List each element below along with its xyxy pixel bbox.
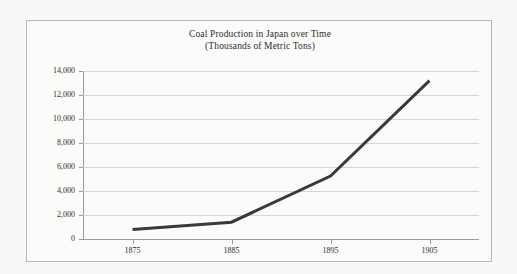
y-axis-tick-label: 8,000 [27,138,75,147]
y-tick-mark-12000 [79,95,83,96]
y-axis-tick-label: 12,000 [27,90,75,99]
y-axis-tick-label: 2,000 [27,210,75,219]
gridline-2000 [83,215,479,216]
y-axis-tick-label: 14,000 [27,66,75,75]
screenshot-canvas: Coal Production in Japan over Time (Thou… [0,0,517,274]
x-axis-tick-label: 1895 [301,246,361,255]
x-axis-tick-label: 1875 [103,246,163,255]
gridline-6000 [83,167,479,168]
y-tick-mark-2000 [79,215,83,216]
y-tick-mark-0 [79,239,83,240]
gridline-8000 [83,143,479,144]
x-tick-mark-1895 [331,240,332,244]
chart-title-block: Coal Production in Japan over Time (Thou… [27,28,493,52]
gridline-4000 [83,191,479,192]
y-tick-mark-10000 [79,119,83,120]
y-tick-mark-14000 [79,71,83,72]
gridline-0 [83,239,479,240]
page-title: Coal Production in Japan over Time [27,28,493,40]
gridline-12000 [83,95,479,96]
y-tick-mark-4000 [79,191,83,192]
y-axis-tick-label: 4,000 [27,186,75,195]
y-tick-mark-8000 [79,143,83,144]
gridline-10000 [83,119,479,120]
chart-subtitle: (Thousands of Metric Tons) [27,40,493,52]
y-tick-mark-6000 [79,167,83,168]
gridline-14000 [83,71,479,72]
chart-frame: Coal Production in Japan over Time (Thou… [26,20,492,262]
y-axis-tick-label: 6,000 [27,162,75,171]
x-tick-mark-1875 [133,240,134,244]
y-axis-tick-label: 0 [27,234,75,243]
plot-area [83,71,479,239]
x-tick-mark-1905 [430,240,431,244]
x-axis-tick-label: 1905 [400,246,460,255]
y-axis-tick-label: 10,000 [27,114,75,123]
x-tick-mark-1885 [232,240,233,244]
x-axis-tick-label: 1885 [202,246,262,255]
